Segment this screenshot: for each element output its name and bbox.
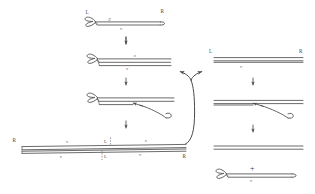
right-step2-strand-displacement bbox=[214, 100, 303, 118]
right-step3-hairpin-label: v bbox=[250, 178, 253, 183]
right-step3-hairpin-loop bbox=[216, 169, 227, 178]
left-step1-bottom-strand-label: v bbox=[120, 26, 123, 31]
left-step4-right-end-label: R bbox=[183, 153, 187, 159]
right-step2-displaced-strand bbox=[261, 106, 288, 118]
right-step1-right-end-label: R bbox=[299, 48, 303, 54]
diagram-svg: L R 3' v c v bbox=[0, 0, 315, 194]
step3-top-strand bbox=[97, 97, 174, 98]
hairpin-right-hook bbox=[160, 22, 164, 25]
step3-middle-strand bbox=[97, 99, 174, 102]
left-step4-bottom-right-label: v bbox=[139, 152, 142, 157]
branch-arrow-left-head bbox=[180, 72, 191, 80]
left-step4-top-right-label: c bbox=[145, 138, 147, 143]
right-step1-left-end-label: L bbox=[209, 48, 212, 54]
left-step2-hairpin-replicated: c v bbox=[87, 53, 171, 71]
left-step3-strand-displacement bbox=[87, 93, 174, 118]
left-step2-bottom-label: v bbox=[126, 66, 129, 71]
left-step1-three-prime-label: 3' bbox=[108, 17, 111, 22]
left-step1-left-end-label: L bbox=[86, 9, 89, 15]
left-step4-resolved-dimer: R R v c c v L L bbox=[13, 137, 187, 161]
left-step2-top-label: c bbox=[134, 53, 136, 58]
left-step1-right-end-label: R bbox=[161, 8, 165, 14]
right-step3-hairpin-top-strand bbox=[226, 173, 292, 174]
left-step4-center-top-label: L bbox=[104, 139, 107, 144]
right-step1-bottom-label: v bbox=[240, 64, 243, 69]
step2-top-strand bbox=[97, 58, 171, 59]
hairpin-loop-left-step2 bbox=[87, 54, 98, 63]
plus-sign: + bbox=[250, 164, 255, 173]
step3-displaced-strand bbox=[140, 105, 166, 118]
hairpin-loop-left bbox=[85, 17, 96, 26]
figure-canvas: L R 3' v c v bbox=[0, 0, 315, 194]
step2-middle-strand bbox=[97, 60, 170, 63]
right-step1-linear-duplex: L R v bbox=[209, 48, 303, 70]
left-step4-left-end-label: R bbox=[13, 137, 17, 143]
branch-arrow-right-head bbox=[191, 72, 202, 80]
right-step3-hairpin-bottom-strand bbox=[226, 175, 291, 178]
hairpin-bottom-strand bbox=[95, 23, 160, 25]
left-step4-bottom-left-label: c bbox=[60, 154, 62, 159]
left-step1-hairpin: L R 3' v bbox=[85, 8, 164, 31]
step3-displaced-hook bbox=[166, 113, 171, 118]
step3-displacement-arrowhead bbox=[133, 103, 143, 106]
left-step4-top-left-label: v bbox=[66, 139, 69, 144]
hairpin-loop-left-step3 bbox=[87, 93, 98, 102]
right-step3-products: + v bbox=[214, 146, 303, 183]
branch-arrow-stem bbox=[186, 80, 195, 144]
hairpin-top-strand bbox=[95, 21, 161, 22]
right-step2-displaced-hook bbox=[288, 113, 293, 118]
left-step4-center-bottom-label: L bbox=[104, 154, 107, 159]
step4-top-strand bbox=[22, 144, 186, 146]
right-step3-hairpin-right-hook bbox=[292, 174, 296, 177]
branching-curved-arrow bbox=[180, 72, 202, 144]
